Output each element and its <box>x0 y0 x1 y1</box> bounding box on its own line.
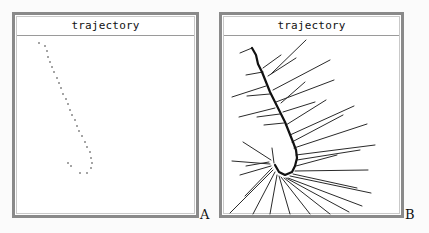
trajectory-point <box>58 82 60 84</box>
trajectory-line <box>290 106 354 135</box>
trajectory-line <box>252 48 297 175</box>
trajectory-point <box>62 93 64 95</box>
trajectory-point <box>81 135 83 137</box>
trajectory-point <box>74 119 76 121</box>
trajectory-point <box>53 71 55 73</box>
trajectory-point <box>91 162 93 164</box>
trajectory-point <box>89 151 91 153</box>
trajectory-line <box>247 94 270 96</box>
trajectory-line <box>272 148 274 163</box>
trajectory-line <box>264 123 284 125</box>
trajectory-point <box>67 162 69 164</box>
trajectory-line <box>288 178 362 206</box>
window-frame-b: trajectory <box>223 16 400 214</box>
trajectory-point <box>86 146 88 148</box>
panel-label-a: A <box>200 207 209 222</box>
trajectory-window-b: trajectory <box>219 12 404 218</box>
trajectory-point <box>70 165 72 167</box>
panel-label-b: B <box>405 207 415 222</box>
trajectory-point <box>86 172 88 174</box>
trajectory-point <box>84 141 86 143</box>
trajectory-point <box>44 45 46 47</box>
trajectory-line <box>290 176 371 193</box>
trajectory-line <box>293 174 357 188</box>
trajectory-point <box>90 167 92 169</box>
trajectory-plot-lines <box>224 36 401 216</box>
trajectory-line <box>230 170 273 213</box>
trajectory-point <box>76 125 78 127</box>
trajectory-line <box>243 142 271 160</box>
trajectory-line <box>292 115 343 142</box>
trajectory-plot-dotted <box>17 36 196 216</box>
trajectory-point <box>90 157 92 159</box>
trajectory-point <box>67 103 69 105</box>
trajectory-line <box>271 40 306 74</box>
trajectory-point <box>47 56 49 58</box>
trajectory-point <box>69 109 71 111</box>
trajectory-line <box>257 114 280 117</box>
trajectory-point <box>46 50 48 52</box>
trajectory-line <box>294 124 367 148</box>
trajectory-line <box>270 175 277 214</box>
trajectory-point <box>38 42 40 44</box>
window-frame-a: trajectory <box>16 16 195 214</box>
trajectory-point <box>79 172 81 174</box>
trajectory-point <box>71 114 73 116</box>
trajectory-line <box>297 150 360 160</box>
trajectory-point <box>56 77 58 79</box>
trajectory-point <box>65 98 67 100</box>
trajectory-line <box>246 72 263 75</box>
trajectory-line <box>240 48 252 53</box>
trajectory-line <box>295 170 368 171</box>
window-title-a: trajectory <box>17 17 194 36</box>
trajectory-point <box>49 61 51 63</box>
trajectory-point <box>60 87 62 89</box>
window-title-b: trajectory <box>224 17 399 36</box>
trajectory-line <box>263 55 281 68</box>
trajectory-window-a: trajectory <box>12 12 199 218</box>
trajectory-line <box>283 102 315 112</box>
trajectory-point <box>51 66 53 68</box>
trajectory-point <box>78 130 80 132</box>
